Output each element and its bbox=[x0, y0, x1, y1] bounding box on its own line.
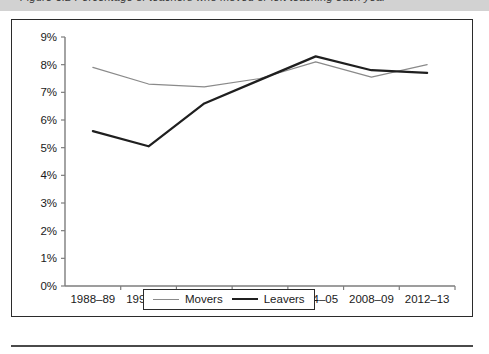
y-axis-tick-label: 0% bbox=[40, 280, 57, 292]
legend-item-movers[interactable]: Movers bbox=[153, 293, 223, 305]
page-top-band: Figure 3.2 Percentage of teachers who mo… bbox=[0, 0, 489, 11]
y-axis-tick-label: 1% bbox=[40, 252, 57, 264]
chart-legend: Movers Leavers bbox=[143, 289, 315, 310]
y-axis-tick-label: 2% bbox=[40, 225, 57, 237]
chart-series-group bbox=[93, 56, 427, 146]
y-axis-tick-label: 9% bbox=[40, 31, 57, 43]
legend-line-swatch-leavers bbox=[232, 298, 258, 300]
y-axis-tick-label: 4% bbox=[40, 169, 57, 181]
chart-plot-area: 0%1%2%3%4%5%6%7%8%9% 1988–891991–921993–… bbox=[12, 20, 472, 316]
line-chart-svg: 0%1%2%3%4%5%6%7%8%9% 1988–891991–921993–… bbox=[12, 20, 472, 316]
x-axis-tick-label: 2012–13 bbox=[405, 293, 450, 305]
series-line-movers bbox=[93, 62, 427, 87]
y-axis-tick-label: 8% bbox=[40, 59, 57, 71]
page-bottom-rule bbox=[11, 345, 473, 347]
legend-label-movers: Movers bbox=[185, 293, 223, 305]
x-axis-tick-label: 2008–09 bbox=[349, 293, 394, 305]
legend-item-leavers[interactable]: Leavers bbox=[232, 293, 305, 305]
y-axis-tick-label: 6% bbox=[40, 114, 57, 126]
y-axis: 0%1%2%3%4%5%6%7%8%9% bbox=[40, 31, 65, 292]
legend-line-swatch-movers bbox=[153, 299, 179, 300]
figure-card: 0%1%2%3%4%5%6%7%8%9% 1988–891991–921993–… bbox=[11, 19, 473, 317]
page-top-band-text: Figure 3.2 Percentage of teachers who mo… bbox=[20, 0, 386, 3]
series-line-leavers bbox=[93, 56, 427, 146]
y-axis-tick-label: 5% bbox=[40, 142, 57, 154]
y-axis-tick-label: 3% bbox=[40, 197, 57, 209]
legend-label-leavers: Leavers bbox=[264, 293, 305, 305]
y-axis-tick-label: 7% bbox=[40, 86, 57, 98]
x-axis-tick-label: 1988–89 bbox=[70, 293, 115, 305]
